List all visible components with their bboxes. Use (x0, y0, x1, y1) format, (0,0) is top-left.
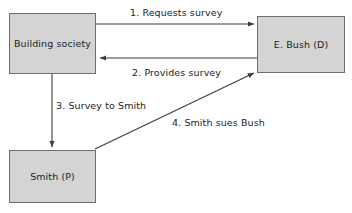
node-smith-label: Smith (P) (30, 171, 75, 182)
node-building-society-label: Building society (14, 38, 91, 49)
diagram-canvas: Building society E. Bush (D) Smith (P) 1… (0, 0, 352, 213)
edge-label-survey-to-smith: 3. Survey to Smith (56, 100, 146, 111)
node-bush-label: E. Bush (D) (274, 39, 328, 50)
node-building-society[interactable]: Building society (9, 13, 96, 74)
node-smith[interactable]: Smith (P) (9, 150, 96, 203)
edge-label-smith-sues-bush: 4. Smith sues Bush (172, 117, 265, 128)
edge-4-line (95, 73, 254, 149)
edge-label-requests-survey: 1. Requests survey (130, 7, 222, 18)
edge-label-provides-survey: 2. Provides survey (132, 67, 221, 78)
node-bush[interactable]: E. Bush (D) (257, 16, 345, 73)
